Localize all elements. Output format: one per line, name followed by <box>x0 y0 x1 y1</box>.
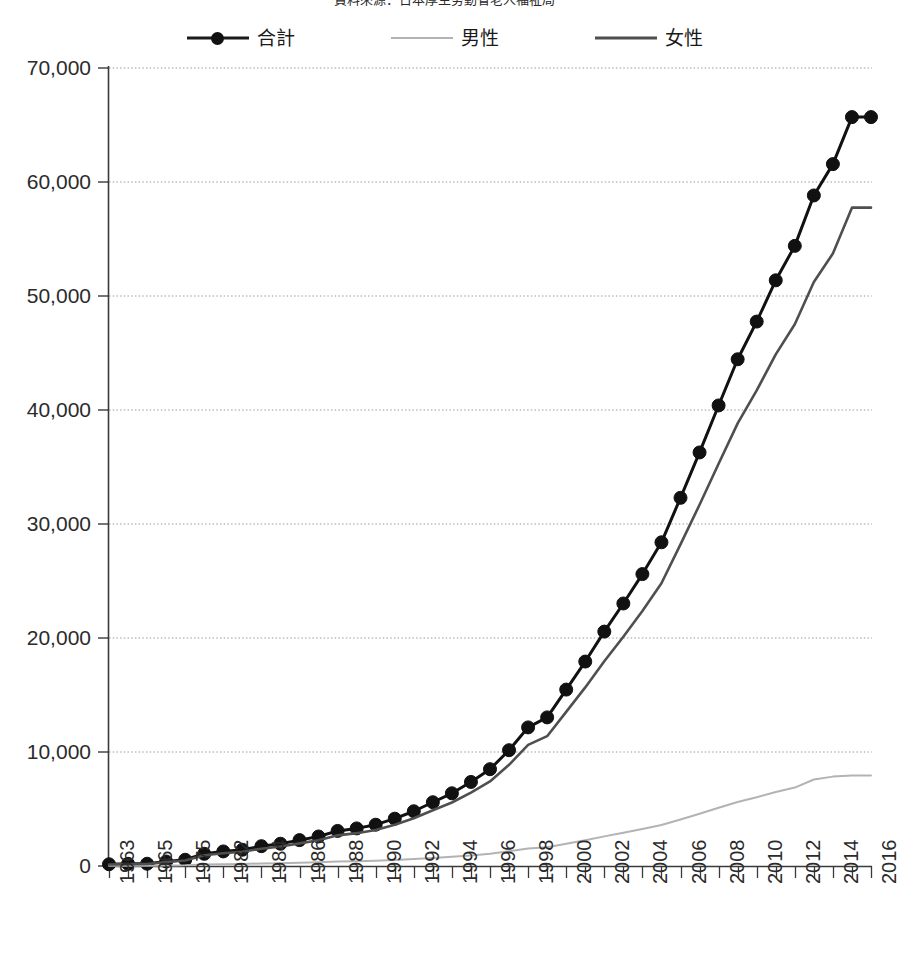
x-tick-label: 2000 <box>574 840 594 885</box>
data-point <box>426 796 439 809</box>
x-tick-label: 1994 <box>460 840 480 885</box>
x-tick-label: 1992 <box>422 840 442 885</box>
data-point <box>788 239 801 252</box>
x-tick-label: 1963 <box>117 840 137 885</box>
x-tick-label: 2010 <box>765 840 785 885</box>
data-point <box>579 655 592 668</box>
x-tick-label: 1986 <box>308 840 328 885</box>
data-point <box>503 744 516 757</box>
x-tick-label: 1998 <box>536 840 556 885</box>
data-point <box>865 111 878 124</box>
data-point <box>731 353 744 366</box>
x-tick-label: 1988 <box>346 840 366 885</box>
data-point <box>655 536 668 549</box>
data-point <box>712 399 725 412</box>
data-point <box>464 775 477 788</box>
x-tick-label: 2014 <box>841 840 861 885</box>
data-point <box>598 625 611 638</box>
x-tick-label: 1990 <box>384 840 404 885</box>
data-point <box>560 683 573 696</box>
x-tick-label: 2016 <box>879 840 899 885</box>
data-point <box>484 763 497 776</box>
x-tick-marks <box>98 68 872 878</box>
x-tick-label: 1984 <box>269 840 289 885</box>
x-tick-label: 2012 <box>803 840 823 885</box>
x-tick-label: 2008 <box>727 840 747 885</box>
x-tick-label: 1996 <box>498 840 518 885</box>
data-point <box>807 189 820 202</box>
data-point <box>217 845 230 858</box>
x-tick-label: 1975 <box>193 840 213 885</box>
x-tick-label: 1982 <box>231 840 251 885</box>
data-point <box>522 721 535 734</box>
data-point <box>636 568 649 581</box>
data-point <box>617 597 630 610</box>
x-tick-label: 2002 <box>612 840 632 885</box>
x-tick-label: 1965 <box>155 840 175 885</box>
data-point <box>693 446 706 459</box>
data-point <box>445 787 458 800</box>
x-tick-label: 2004 <box>650 840 670 885</box>
data-point <box>826 158 839 171</box>
data-point <box>674 491 687 504</box>
gridlines <box>109 68 872 752</box>
data-series-layer <box>103 111 878 871</box>
data-point <box>769 274 782 287</box>
x-tick-label: 2006 <box>689 840 709 885</box>
data-point <box>750 315 763 328</box>
data-point <box>541 711 554 724</box>
data-point <box>845 111 858 124</box>
